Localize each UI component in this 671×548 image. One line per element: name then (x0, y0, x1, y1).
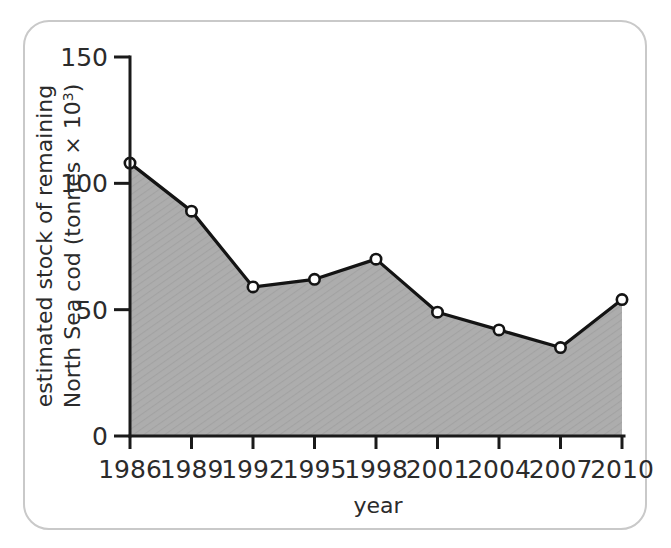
y-axis-title-line2-superscript: 3 (60, 92, 76, 101)
data-point-marker (248, 282, 258, 292)
x-tick-label: 2001 (406, 455, 470, 484)
plot-area (125, 158, 627, 436)
y-axis-title-line1: estimated stock of remaining (32, 85, 57, 407)
x-axis-title: year (353, 493, 403, 518)
data-point-marker (617, 294, 627, 304)
x-tick-marks (130, 436, 622, 449)
series-area-fill (130, 163, 622, 436)
cod-stock-area-chart: 050100150 198619891992199519982001200420… (0, 0, 671, 548)
x-tick-label: 2004 (467, 455, 531, 484)
y-axis-title-line2-suffix: ) (60, 84, 85, 93)
x-tick-label: 1998 (344, 455, 408, 484)
data-point-marker (432, 307, 442, 317)
x-tick-label: 1989 (160, 455, 224, 484)
x-axis: 198619891992199519982001200420072010 (98, 436, 654, 484)
x-tick-label: 2007 (529, 455, 593, 484)
x-tick-label: 2010 (590, 455, 654, 484)
data-point-marker (494, 325, 504, 335)
y-axis-title-line2: North Sea cod (tonnes × 103) (60, 84, 85, 409)
y-axis-title: estimated stock of remaining North Sea c… (32, 84, 85, 409)
data-point-marker (309, 274, 319, 284)
x-tick-label: 1986 (98, 455, 162, 484)
x-tick-labels: 198619891992199519982001200420072010 (98, 455, 654, 484)
y-tick-label: 150 (60, 43, 108, 72)
x-tick-label: 1992 (221, 455, 285, 484)
data-point-marker (371, 254, 381, 264)
data-point-marker (186, 206, 196, 216)
x-tick-label: 1995 (283, 455, 347, 484)
y-axis-title-line2-prefix: North Sea cod (tonnes × 10 (60, 101, 85, 408)
y-tick-marks (114, 57, 130, 436)
y-tick-label: 0 (92, 422, 108, 451)
data-point-marker (555, 342, 565, 352)
